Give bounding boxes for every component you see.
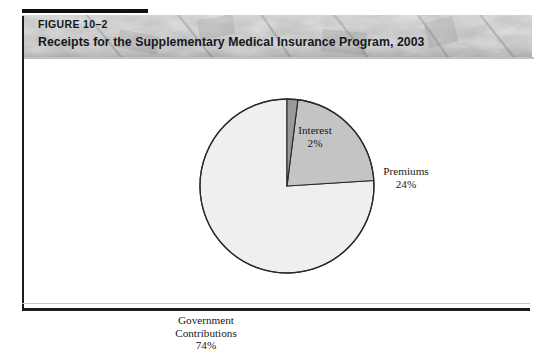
figure-frame-bottom-border xyxy=(22,308,530,311)
pie-label-interest: Interest 2% xyxy=(260,124,370,149)
pie-label-premiums-percent: 24% xyxy=(356,178,456,191)
pie-label-government-name-line2: Contributions xyxy=(146,327,266,340)
pie-label-premiums: Premiums 24% xyxy=(356,165,456,190)
pie-label-interest-name: Interest xyxy=(260,124,370,137)
pie-label-interest-percent: 2% xyxy=(260,137,370,150)
pie-label-government-name-line1: Government xyxy=(146,314,266,327)
pie-label-government-contributions: Government Contributions 74% xyxy=(146,314,266,352)
pie-label-government-percent: 74% xyxy=(146,339,266,352)
figure-top-rule xyxy=(22,9,148,13)
figure-number: FIGURE 10–2 xyxy=(38,18,108,30)
figure-header-band: FIGURE 10–2 Receipts for the Supplementa… xyxy=(22,15,532,57)
figure-title: Receipts for the Supplementary Medical I… xyxy=(38,35,424,49)
pie-label-premiums-name: Premiums xyxy=(356,165,456,178)
pie-chart-plot-area: Interest 2% Premiums 24% Government Cont… xyxy=(24,58,530,304)
